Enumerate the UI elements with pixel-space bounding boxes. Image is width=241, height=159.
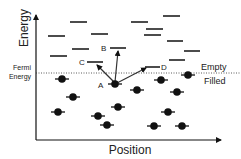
filled-electron bbox=[147, 122, 161, 130]
filled-electron bbox=[91, 112, 105, 120]
filled-electron bbox=[175, 122, 189, 130]
arrow-a-to-d bbox=[117, 68, 146, 83]
label-a: A bbox=[98, 81, 104, 90]
filled-electron bbox=[55, 75, 69, 83]
label-c: C bbox=[79, 58, 85, 67]
filled-electron bbox=[111, 103, 125, 111]
transition-arrows bbox=[97, 51, 146, 83]
fermi-label-line1: Fermi bbox=[13, 64, 31, 71]
arrow-a-to-c bbox=[97, 65, 114, 82]
labeled-levels bbox=[87, 48, 160, 67]
fermi-label-line2: Energy bbox=[9, 73, 32, 81]
energy-band-diagram: Energy Position Fermi Energy Empty Fille… bbox=[0, 0, 241, 159]
y-axis-label: Energy bbox=[17, 9, 31, 47]
label-d: D bbox=[161, 63, 167, 72]
filled-electron bbox=[100, 121, 114, 129]
empty-label: Empty bbox=[201, 62, 227, 72]
filled-electron bbox=[154, 76, 168, 84]
filled-electron bbox=[181, 71, 195, 79]
label-b: B bbox=[101, 44, 106, 53]
filled-electron bbox=[130, 86, 144, 94]
filled-label: Filled bbox=[204, 76, 226, 86]
arrow-a-to-b bbox=[115, 51, 118, 82]
filled-electron bbox=[161, 108, 175, 116]
filled-electron bbox=[66, 93, 80, 101]
filled-electron bbox=[51, 108, 65, 116]
x-axis-label: Position bbox=[109, 143, 152, 157]
filled-electron bbox=[170, 88, 184, 96]
empty-levels bbox=[48, 16, 200, 60]
